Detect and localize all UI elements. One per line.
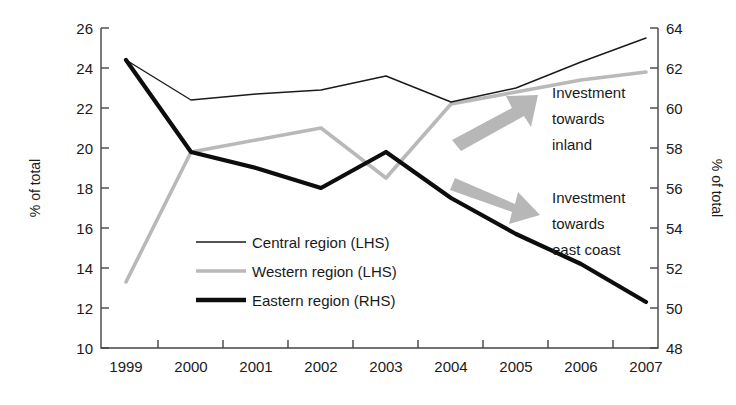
bottom-axis-ticks bbox=[158, 340, 613, 348]
x-tick-label-1999: 1999 bbox=[109, 358, 142, 375]
annotation-east-coast-line2: towards bbox=[552, 215, 605, 232]
bottom-axis-tick-labels: 1999 2000 2001 2002 2003 2004 2005 2006 … bbox=[109, 358, 662, 375]
right-tick-label: 64 bbox=[666, 20, 683, 37]
x-tick-label-2003: 2003 bbox=[369, 358, 402, 375]
x-tick-label-2002: 2002 bbox=[304, 358, 337, 375]
left-tick-label: 22 bbox=[76, 100, 93, 117]
chart-container: 26 24 22 20 18 16 14 12 10 64 62 60 bbox=[0, 0, 736, 405]
x-tick-label-2006: 2006 bbox=[564, 358, 597, 375]
left-tick-label: 12 bbox=[76, 300, 93, 317]
right-tick-label: 60 bbox=[666, 100, 683, 117]
x-tick-label-2007: 2007 bbox=[629, 358, 662, 375]
left-tick-label: 14 bbox=[76, 260, 93, 277]
x-tick-label-2004: 2004 bbox=[434, 358, 467, 375]
left-axis-tick-labels: 26 24 22 20 18 16 14 12 10 bbox=[76, 20, 93, 357]
legend-label-eastern-region: Eastern region (RHS) bbox=[252, 292, 395, 309]
left-tick-label: 18 bbox=[76, 180, 93, 197]
annotation-inland-line2: towards bbox=[552, 110, 605, 127]
right-tick-label: 50 bbox=[666, 300, 683, 317]
left-tick-label: 24 bbox=[76, 60, 93, 77]
legend-label-western-region: Western region (LHS) bbox=[252, 263, 397, 280]
arrow-down-right-icon bbox=[450, 178, 540, 224]
right-tick-label: 52 bbox=[666, 260, 683, 277]
left-tick-label: 16 bbox=[76, 220, 93, 237]
right-tick-label: 58 bbox=[666, 140, 683, 157]
left-axis-title: % of total bbox=[27, 159, 43, 217]
right-tick-label: 48 bbox=[666, 340, 683, 357]
x-tick-label-2000: 2000 bbox=[174, 358, 207, 375]
right-tick-label: 54 bbox=[666, 220, 683, 237]
right-axis-tick-labels: 64 62 60 58 56 54 52 50 48 bbox=[666, 20, 683, 357]
annotation-east-coast-line3: east coast bbox=[552, 241, 621, 258]
left-tick-label: 20 bbox=[76, 140, 93, 157]
annotation-inland-line1: Investment bbox=[552, 84, 626, 101]
legend-label-central-region: Central region (LHS) bbox=[252, 234, 390, 251]
line-chart: 26 24 22 20 18 16 14 12 10 64 62 60 bbox=[0, 0, 736, 405]
left-tick-label: 10 bbox=[76, 340, 93, 357]
right-axis-ticks bbox=[650, 28, 658, 348]
left-tick-label: 26 bbox=[76, 20, 93, 37]
arrow-up-right-icon bbox=[452, 95, 538, 151]
annotation-east-coast-line1: Investment bbox=[552, 189, 626, 206]
right-tick-label: 56 bbox=[666, 180, 683, 197]
annotation-inland: Investment towards inland bbox=[452, 84, 626, 153]
right-axis-title: % of total bbox=[709, 159, 725, 217]
x-tick-label-2001: 2001 bbox=[239, 358, 272, 375]
annotation-inland-line3: inland bbox=[552, 136, 592, 153]
chart-legend: Central region (LHS) Western region (LHS… bbox=[196, 234, 397, 309]
x-tick-label-2005: 2005 bbox=[499, 358, 532, 375]
left-axis-ticks bbox=[101, 28, 109, 348]
right-tick-label: 62 bbox=[666, 60, 683, 77]
